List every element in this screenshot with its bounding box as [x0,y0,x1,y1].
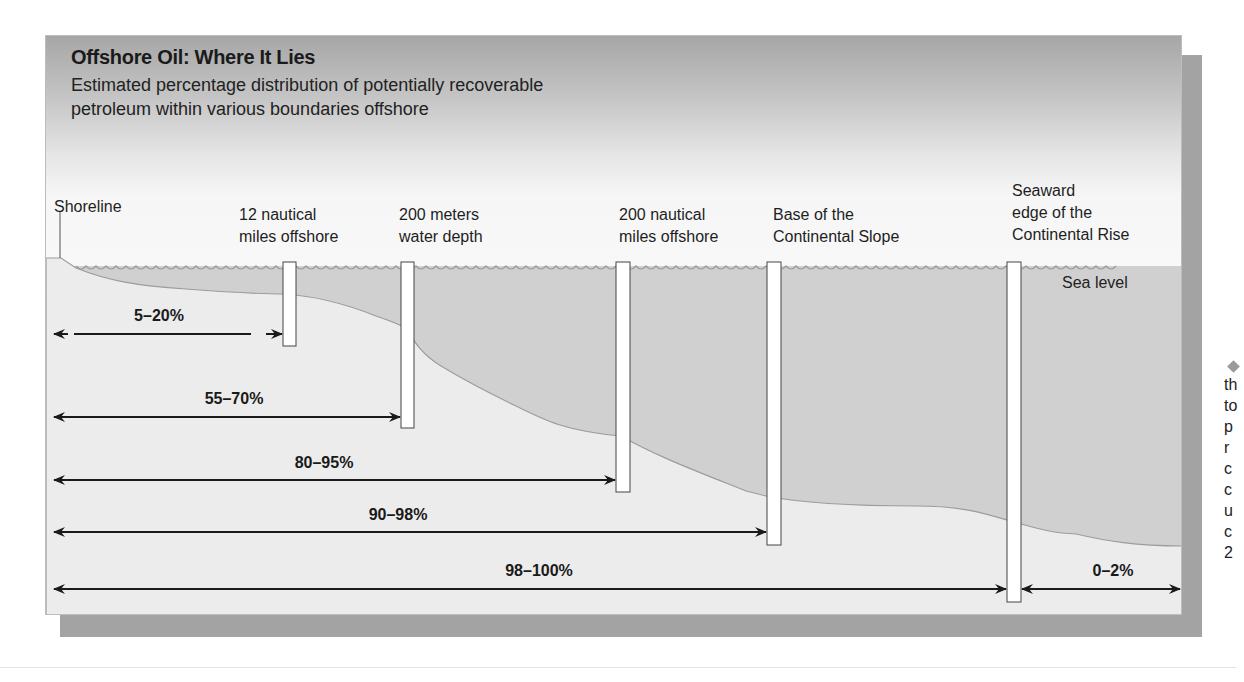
label-200nm: 200 nautical miles offshore [619,204,718,248]
pct-98-100: 98–100% [505,562,573,580]
pole-200m [401,262,414,428]
pct-55-70: 55–70% [205,390,264,408]
page-divider [0,667,1236,668]
label-12nm: 12 nautical miles offshore [239,204,338,248]
label-200m: 200 meters water depth [399,204,483,248]
pct-0-2: 0–2% [1093,562,1134,580]
label-continental-rise: Seaward edge of the Continental Rise [1012,180,1129,246]
pole-slope [767,262,781,545]
caption-marker-icon [1227,360,1240,373]
pole-12nm [283,262,296,346]
seabed-cross-section [46,36,1182,615]
pct-80-95: 80–95% [295,454,354,472]
pole-rise [1007,262,1021,602]
side-caption-fragment: th to p r c c u c 2 [1224,374,1244,563]
pct-5-20: 5–20% [134,307,184,325]
sea-level-label: Sea level [1062,274,1128,292]
diagram-panel: Offshore Oil: Where It Lies Estimated pe… [45,35,1182,615]
pole-200nm [616,262,630,492]
label-shoreline: Shoreline [54,196,122,218]
label-continental-slope: Base of the Continental Slope [773,204,899,248]
pct-90-98: 90–98% [369,506,428,524]
